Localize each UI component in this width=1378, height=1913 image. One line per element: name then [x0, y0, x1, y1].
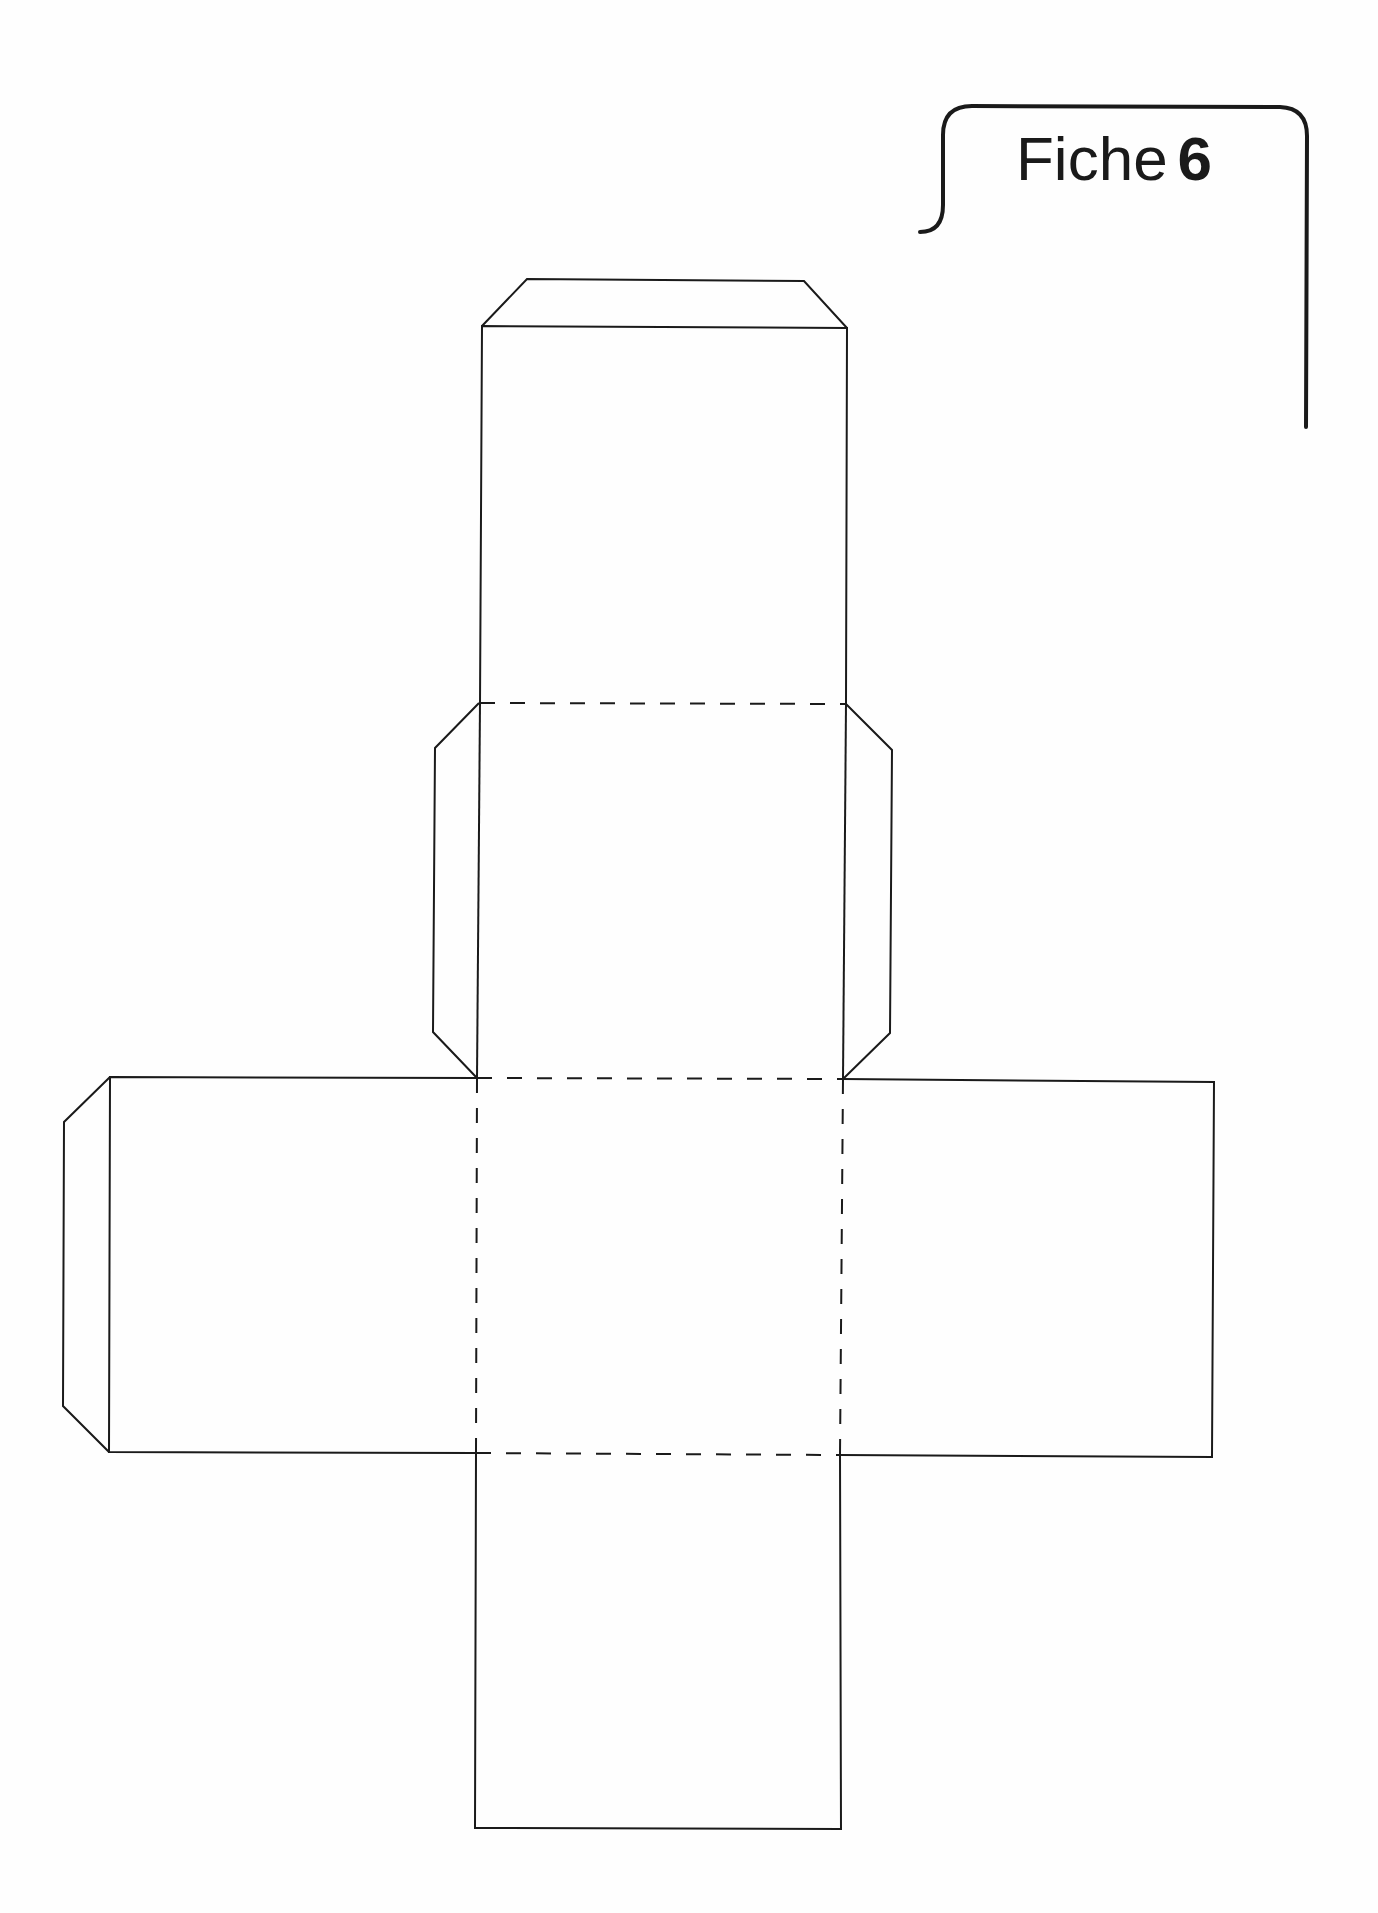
- cube-net-figure: [0, 0, 1378, 1913]
- glue-tab-right: [843, 704, 892, 1079]
- fold-line-middle: [477, 1078, 843, 1079]
- face-top: [480, 326, 847, 704]
- face-upper-left-edge: [477, 703, 480, 1078]
- fiche-label-number: 6: [1178, 124, 1212, 193]
- face-left: [109, 1077, 477, 1453]
- fold-line-lower: [476, 1453, 840, 1455]
- face-upper-right-edge: [843, 704, 846, 1079]
- face-right: [840, 1079, 1214, 1457]
- fiche-label-word: Fiche: [1016, 124, 1168, 193]
- face-bottom: [475, 1453, 841, 1829]
- glue-tab-top: [482, 279, 847, 328]
- fold-line-upper: [480, 703, 846, 704]
- glue-tab-left: [433, 703, 479, 1078]
- glue-tab-far-left: [63, 1077, 110, 1452]
- fiche-label: Fiche6: [1016, 128, 1212, 190]
- fold-line-center-left: [476, 1078, 477, 1453]
- worksheet-page: Fiche6: [0, 0, 1378, 1913]
- fold-line-center-right: [840, 1079, 843, 1455]
